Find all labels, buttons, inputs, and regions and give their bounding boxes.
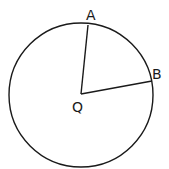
center-q-label: Q (72, 99, 83, 115)
circle (9, 23, 153, 167)
circle-diagram: A B Q (0, 0, 169, 169)
radius-qa (81, 25, 88, 94)
radius-qb (81, 81, 152, 94)
point-b-label: B (152, 66, 162, 82)
point-a-label: A (86, 7, 96, 23)
